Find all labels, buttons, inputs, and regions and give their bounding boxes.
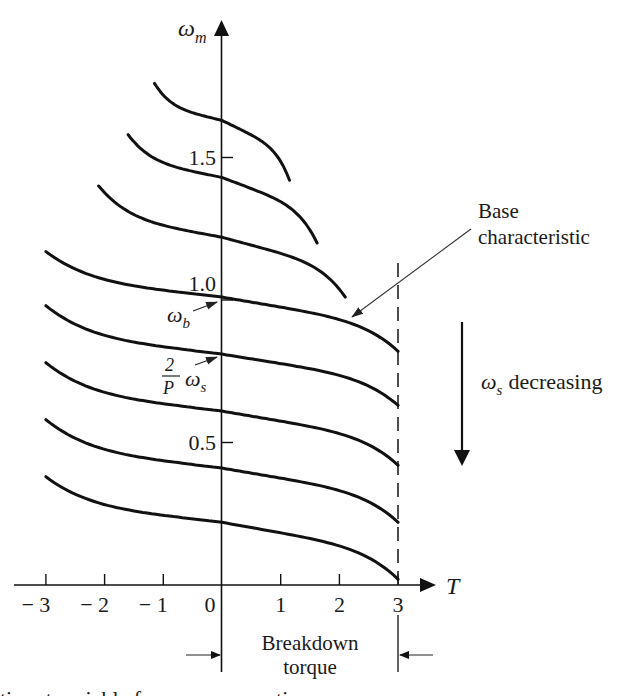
y-axis-arrow-icon xyxy=(214,20,229,36)
breakdown-label: Breakdown xyxy=(262,631,359,655)
x-tick-label: − 3 xyxy=(21,592,50,617)
x-axis: T − 3− 2− 10123 xyxy=(14,573,461,617)
characteristic-label: characteristic xyxy=(478,225,590,249)
omega-s-annotation: 2 P ωs xyxy=(162,355,217,398)
svg-text:ωs: ωs xyxy=(185,366,207,395)
speed-torque-diagram: T − 3− 2− 10123 ωm 0.51.01.5 Base charac… xyxy=(0,0,633,696)
x-tick-label: 1 xyxy=(275,592,286,617)
base-characteristic-annotation: Base characteristic xyxy=(352,199,590,317)
figure-caption-partial: tics at variable frequency operation xyxy=(0,684,633,696)
down-arrow-icon xyxy=(454,450,470,466)
x-tick-label: 0 xyxy=(205,592,216,617)
x-axis-arrow-icon xyxy=(420,578,436,592)
x-tick-label: 3 xyxy=(393,592,404,617)
y-tick-label: 0.5 xyxy=(189,430,217,455)
breakdown-torque-dimension: Breakdown torque xyxy=(186,615,433,679)
y-tick-label: 1.5 xyxy=(189,145,217,170)
x-axis-ticks: − 3− 2− 10123 xyxy=(21,574,403,617)
omega-b-annotation: ωb xyxy=(167,302,217,331)
x-tick-label: − 2 xyxy=(80,592,109,617)
speed-torque-curve xyxy=(128,135,317,243)
torque-label: torque xyxy=(283,655,337,679)
x-tick-label: − 1 xyxy=(139,592,168,617)
fraction-numerator: 2 xyxy=(165,355,174,375)
omega-s-decreasing-annotation: ωsdecreasing xyxy=(454,322,602,466)
base-label: Base xyxy=(478,199,519,223)
x-tick-label: 2 xyxy=(334,592,345,617)
svg-text:ωsdecreasing: ωsdecreasing xyxy=(481,369,602,398)
svg-text:ωb: ωb xyxy=(167,302,191,331)
y-axis: ωm 0.51.01.5 xyxy=(178,15,233,672)
x-axis-label: T xyxy=(446,573,461,599)
y-axis-label: ωm xyxy=(178,15,207,46)
fraction-denominator: P xyxy=(162,378,174,398)
